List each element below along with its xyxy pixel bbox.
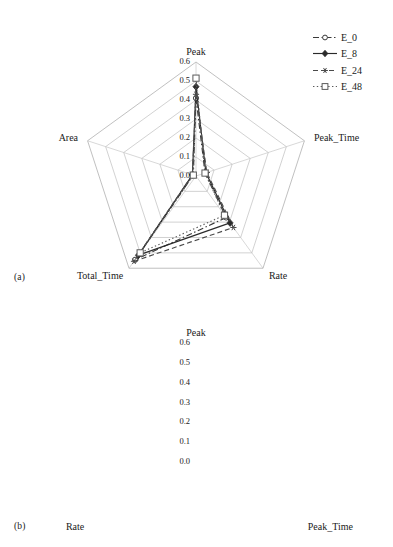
panel-caption-b: (b) <box>14 521 26 531</box>
legend-label-e_48: E_48 <box>341 81 362 92</box>
legend-swatch-e_24-icon <box>312 65 338 76</box>
radial-tick-label: 0.4 <box>160 377 190 387</box>
radial-tick-label: 0.2 <box>160 132 190 142</box>
axis-title-peak_time: Peak_Time <box>314 132 359 143</box>
axis-title-total_time: Total_Time <box>77 270 123 281</box>
panel-caption-a: (a) <box>14 272 25 282</box>
legend-label-e_0: E_0 <box>341 32 357 43</box>
radial-tick-label: 0.1 <box>160 151 190 161</box>
radial-tick-label: 0.5 <box>160 357 190 367</box>
radial-tick-label: 0.3 <box>160 397 190 407</box>
legend-item-e_8[interactable]: E_8 <box>312 46 362 63</box>
radial-tick-label: 0.4 <box>160 94 190 104</box>
axis-title-peak_time: Peak_Time <box>308 521 353 532</box>
legend-label-e_8: E_8 <box>341 48 357 59</box>
radial-tick-label: 0.3 <box>160 113 190 123</box>
legend-panel-a: E_0E_8E_24E_48 <box>312 29 362 95</box>
radial-tick-label: 0.6 <box>160 56 190 66</box>
legend-swatch-e_48-icon <box>312 81 338 92</box>
legend-label-e_24: E_24 <box>341 65 362 76</box>
legend-swatch-e_8-icon <box>312 48 338 59</box>
radial-tick-label: 0.6 <box>160 337 190 347</box>
radial-tick-label: 0.2 <box>160 416 190 426</box>
legend-swatch-e_0-icon <box>312 32 338 43</box>
radar-chart-panel-a: E_0E_8E_24E_48 PeakPeak_TimeRateTotal_Ti… <box>0 0 393 290</box>
legend-item-e_24[interactable]: E_24 <box>312 62 362 79</box>
radar-chart-panel-b: E_0E_8E_24E_48 PeakPeak_TimeRate0.60.50.… <box>0 290 393 547</box>
radial-tick-label: 0.1 <box>160 436 190 446</box>
axis-title-rate: Rate <box>66 521 84 532</box>
radial-tick-label: 0.0 <box>160 170 190 180</box>
legend-item-e_0[interactable]: E_0 <box>312 29 362 46</box>
axis-title-rate: Rate <box>269 270 287 281</box>
legend-item-e_48[interactable]: E_48 <box>312 79 362 96</box>
axis-title-area: Area <box>59 132 78 143</box>
radial-tick-label: 0.5 <box>160 75 190 85</box>
radial-tick-label: 0.0 <box>160 456 190 466</box>
